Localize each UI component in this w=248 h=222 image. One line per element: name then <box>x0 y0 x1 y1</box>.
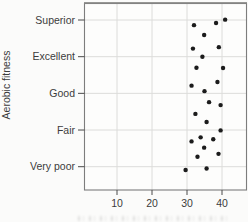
data-point <box>221 66 225 70</box>
x-tick-label: 40 <box>216 197 228 209</box>
data-point <box>204 120 208 124</box>
y-tick-label: Very poor <box>30 160 75 172</box>
data-point <box>193 112 197 116</box>
data-point <box>218 128 222 132</box>
data-point <box>207 100 211 104</box>
y-tick-label: Excellent <box>32 50 75 62</box>
y-tick-label: Good <box>49 87 75 99</box>
data-point <box>214 21 218 25</box>
data-point <box>211 137 215 141</box>
data-point <box>223 17 227 21</box>
data-point <box>183 168 187 172</box>
data-point <box>218 103 222 107</box>
data-point <box>202 33 206 37</box>
x-tick-label: 20 <box>146 197 158 209</box>
data-point <box>189 139 193 143</box>
aerobic-fitness-dotplot: 10203040Very poorFairGoodExcellentSuperi… <box>0 0 248 222</box>
y-axis-title: Aerobic fitness <box>0 51 12 120</box>
x-axis-label-clipped <box>78 216 230 221</box>
data-point <box>202 145 206 149</box>
y-tick-label: Fair <box>57 124 76 136</box>
data-point <box>202 89 206 93</box>
data-point <box>194 65 198 69</box>
x-tick-label: 30 <box>181 197 193 209</box>
data-point <box>216 152 220 156</box>
chart-canvas: 10203040Very poorFairGoodExcellentSuperi… <box>0 0 248 222</box>
x-tick-label: 10 <box>111 197 123 209</box>
data-point <box>191 46 195 50</box>
data-point <box>204 166 208 170</box>
data-point <box>189 83 193 87</box>
y-tick-label: Superior <box>35 14 75 26</box>
data-point <box>200 54 204 58</box>
data-point <box>215 80 219 84</box>
data-point <box>192 23 196 27</box>
data-point <box>198 135 202 139</box>
data-point <box>217 45 221 49</box>
data-point <box>195 155 199 159</box>
